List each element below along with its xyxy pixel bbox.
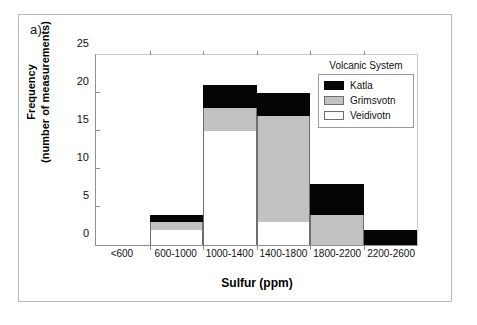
legend-item-veidivotn[interactable]: Veidivotn [324,108,408,123]
bar-segment-katla[interactable] [364,230,418,245]
y-axis-title-line1: Frequency [24,0,38,192]
y-axis-title: Frequency (number of measurements) [24,0,52,192]
bar-segment-grimsvotn[interactable] [150,222,204,230]
legend-title: Volcanic System [318,60,414,71]
bar-segment-grimsvotn[interactable] [257,116,311,222]
legend-label: Grimsvotn [350,95,396,106]
y-tick-label: 10 [58,151,96,163]
x-tick-mark [150,51,151,55]
bar-segment-veidivotn[interactable] [150,230,204,245]
legend-item-grimsvotn[interactable]: Grimsvotn [324,93,408,108]
legend-item-katla[interactable]: Katla [324,78,408,93]
x-axis-title: Sulfur (ppm) [95,276,419,290]
y-tick-label: 5 [58,189,96,201]
figure-panel: a) Frequency (number of measurements) Su… [0,0,477,325]
legend-swatch-katla [324,81,344,90]
x-tick-label: 2200-2600 [364,248,418,259]
legend-swatch-veidivotn [324,111,344,120]
bar-column[interactable] [257,55,311,245]
x-tick-label: 1000-1400 [203,248,257,259]
bar-column[interactable] [203,55,257,245]
bar-segment-katla[interactable] [310,184,364,214]
bar-segment-katla[interactable] [203,85,257,108]
bar-segment-grimsvotn[interactable] [310,215,364,245]
bar-segment-katla[interactable] [257,93,311,116]
x-tick-mark [310,51,311,55]
bar-segment-katla[interactable] [150,215,204,223]
y-tick-label: 20 [58,75,96,87]
bar-segment-veidivotn[interactable] [203,131,257,245]
y-tick-label: 0 [58,227,96,239]
bar-segment-grimsvotn[interactable] [203,108,257,131]
x-tick-mark [257,51,258,55]
legend-swatch-grimsvotn [324,96,344,105]
y-tick-label: 25 [58,37,96,49]
legend: Volcanic System KatlaGrimsvotnVeidivotn [318,60,414,128]
legend-label: Katla [350,80,373,91]
x-tick-label: 600-1000 [149,248,203,259]
x-tick-label: 1400-1800 [256,248,310,259]
x-axis-ticks: <600600-10001000-14001400-18001800-22002… [95,248,418,259]
bar-column[interactable] [150,55,204,245]
legend-label: Veidivotn [350,110,391,121]
x-tick-label: 1800-2200 [310,248,364,259]
x-tick-label: <600 [95,248,149,259]
y-axis-title-line2: (number of measurements) [38,0,52,192]
x-tick-mark [203,51,204,55]
bar-column[interactable] [96,55,150,245]
bar-segment-veidivotn[interactable] [257,222,311,245]
y-tick-label: 15 [58,113,96,125]
x-tick-mark [364,51,365,55]
legend-box: KatlaGrimsvotnVeidivotn [318,74,414,128]
